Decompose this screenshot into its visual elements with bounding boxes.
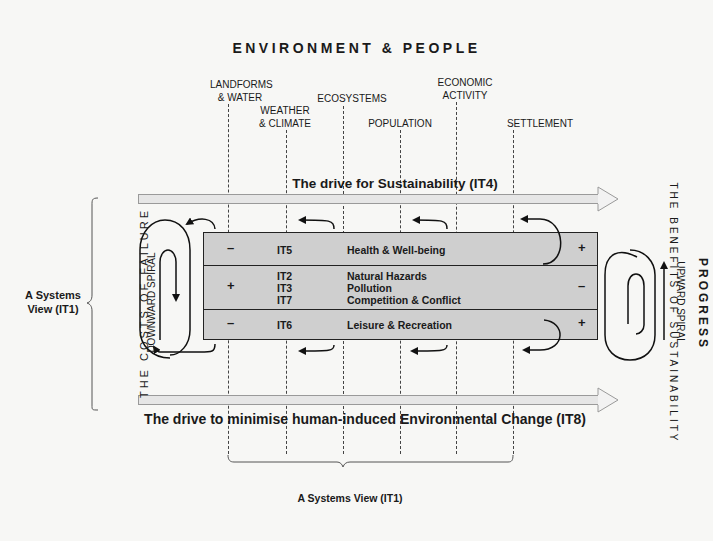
left-systems-view-label: A Systems View (IT1): [18, 288, 88, 316]
downward-spiral-label: DOWNWARD SPIRAL: [146, 228, 157, 378]
bottom-brace-icon: [228, 455, 513, 467]
top-arrow-head: [598, 187, 618, 211]
upward-spiral-label: UPWARD SPIRAL: [675, 243, 686, 363]
bottom-arrow-head: [598, 388, 618, 412]
left-brace-icon: [87, 198, 98, 410]
bottom-systems-view-label: A Systems View (IT1): [270, 491, 430, 505]
bottom-small-arrows: [154, 320, 560, 352]
top-small-arrows: [187, 219, 561, 264]
progress-label: PROGRESS: [696, 244, 710, 364]
upward-spiral-icon: [605, 250, 664, 360]
diagram-graphics: [0, 0, 713, 541]
